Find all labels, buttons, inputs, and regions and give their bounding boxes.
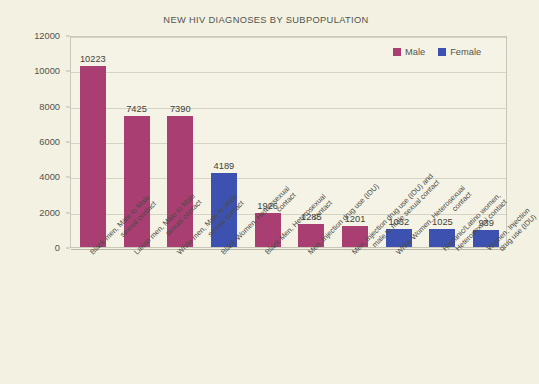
y-axis-tick-label: 12000 — [34, 31, 60, 41]
y-axis-tick-label: 0 — [55, 243, 60, 253]
bar-value-label: 7390 — [170, 104, 191, 114]
bar-value-label: 7425 — [126, 104, 147, 114]
y-axis: 020004000600080001000012000 — [0, 36, 66, 248]
y-axis-tick-label: 6000 — [39, 137, 60, 147]
legend-item-female[interactable]: Female — [438, 47, 481, 57]
bar-group: 10223 — [71, 37, 115, 247]
bar-value-label: 4189 — [214, 161, 235, 171]
bar[interactable] — [80, 66, 106, 247]
chart-title: NEW HIV DIAGNOSES BY SUBPOPULATION — [0, 15, 532, 25]
x-axis-labels: Black men, Male to Malesexual contactLat… — [70, 250, 507, 380]
legend-swatch-icon — [438, 48, 446, 56]
y-axis-tick-label: 4000 — [39, 172, 60, 182]
legend-label: Male — [405, 47, 425, 57]
y-axis-tick-label: 2000 — [39, 208, 60, 218]
chart-legend: MaleFemale — [393, 47, 481, 57]
legend-swatch-icon — [393, 48, 401, 56]
bar-value-label: 10223 — [80, 54, 106, 64]
legend-item-male[interactable]: Male — [393, 47, 425, 57]
y-axis-tick-label: 8000 — [39, 102, 60, 112]
y-axis-tick-label: 10000 — [34, 66, 60, 76]
legend-label: Female — [450, 47, 481, 57]
